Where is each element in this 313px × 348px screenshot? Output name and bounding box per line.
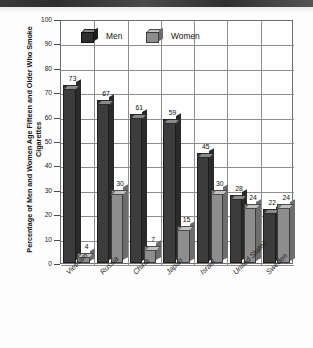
bar-front-face — [211, 190, 224, 263]
bar-value-label: 73 — [62, 75, 84, 82]
bar-side-face — [156, 241, 161, 261]
bar-israel-men — [197, 153, 210, 263]
plot-area: 73467306175915453028242224 Men Women — [60, 20, 293, 264]
legend-label-women: Women — [171, 31, 200, 41]
bar-value-label: 30 — [109, 180, 131, 187]
y-axis-tick-100: 100 — [26, 16, 52, 23]
bar-value-label: 59 — [162, 109, 184, 116]
bar-front-face — [97, 100, 110, 263]
bar-front-face — [163, 119, 176, 263]
bar-value-label: 7 — [142, 236, 164, 243]
bar-russia-women — [111, 190, 124, 263]
y-axis-tick-40: 40 — [26, 162, 52, 169]
y-axis-tick-0: 0 — [26, 260, 52, 267]
scan-artifact-band — [0, 0, 313, 7]
bar-china-men — [130, 114, 143, 263]
bar-front-face — [197, 153, 210, 263]
y-axis-tick-30: 30 — [26, 187, 52, 194]
bar-front-face — [130, 114, 143, 263]
bar-side-face — [223, 185, 228, 261]
vertical-gridline — [94, 21, 95, 265]
chart-page: Percentage of Men and Women Age Fifteen … — [0, 0, 313, 348]
bar-russia-men — [97, 100, 110, 263]
bar-israel-women — [211, 190, 224, 263]
bar-sweden-men — [263, 209, 276, 263]
bar-value-label: 15 — [176, 216, 198, 223]
y-axis-tick-10: 10 — [26, 236, 52, 243]
bar-front-face — [63, 85, 76, 263]
gridline — [61, 45, 294, 46]
y-axis-tick-70: 70 — [26, 89, 52, 96]
bar-value-label: 24 — [275, 194, 297, 201]
bar-value-label: 61 — [128, 104, 150, 111]
bar-japan-men — [163, 119, 176, 263]
bar-value-label: 28 — [228, 185, 250, 192]
legend-label-men: Men — [106, 31, 122, 41]
vertical-gridline — [161, 21, 162, 265]
y-axis-tickmark — [54, 264, 60, 265]
bar-united-states-men — [230, 195, 243, 263]
bar-side-face — [290, 199, 295, 260]
bar-value-label: 4 — [76, 243, 98, 250]
y-axis-tick-50: 50 — [26, 138, 52, 145]
bar-front-face — [263, 209, 276, 263]
women-swatch-cube-icon — [146, 29, 163, 43]
y-axis-tick-90: 90 — [26, 40, 52, 47]
y-axis-tick-80: 80 — [26, 65, 52, 72]
bar-side-face — [76, 80, 81, 261]
scan-artifact-haze — [0, 7, 313, 13]
y-axis-tick-20: 20 — [26, 211, 52, 218]
bar-vietnam-men — [63, 85, 76, 263]
bar-front-face — [230, 195, 243, 263]
gridline — [61, 70, 294, 71]
men-swatch-cube-icon — [81, 29, 98, 43]
bar-value-label: 45 — [195, 143, 217, 150]
bar-value-label: 67 — [95, 90, 117, 97]
bar-side-face — [123, 185, 128, 261]
y-axis-tick-60: 60 — [26, 114, 52, 121]
bar-front-face — [111, 190, 124, 263]
